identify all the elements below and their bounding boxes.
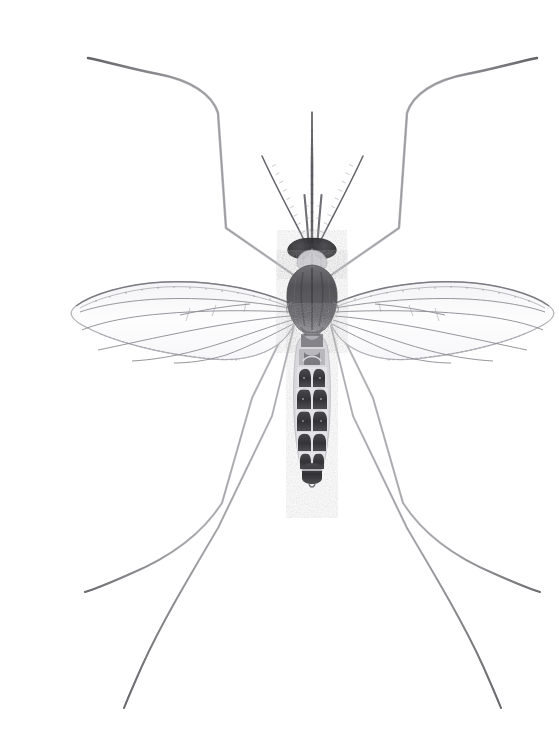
abdomen-segment-6: [297, 433, 327, 451]
abdomen-segment-5: [296, 410, 328, 431]
abdomen-segment-3: [297, 368, 327, 387]
abdomen-segment-8: [302, 463, 322, 484]
abdomen-segment-2: [299, 349, 325, 365]
abdomen-segment-4: [296, 388, 328, 409]
specimen-canvas: [40, 16, 559, 744]
abdomen-segment-1: [301, 334, 323, 347]
mosquito-illustration: Mosquito specimen, dorsal view: [40, 16, 559, 744]
abdomen-group: [294, 334, 331, 487]
